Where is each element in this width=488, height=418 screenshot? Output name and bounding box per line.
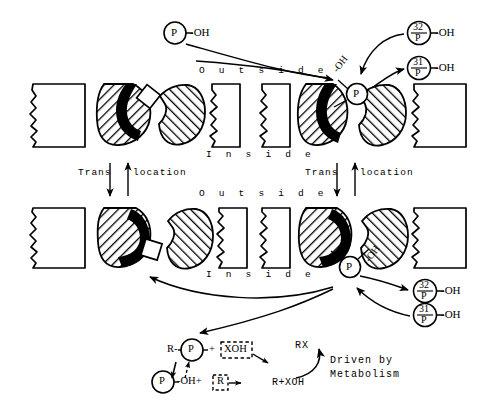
- cold-phosphate-symbol: P: [415, 68, 421, 78]
- membrane-block: [210, 84, 240, 147]
- cold-phosphate-symbol: P: [421, 315, 427, 325]
- carrier-lobe-right: [167, 209, 213, 269]
- inside-label-top: I n s i d e: [206, 150, 315, 160]
- carrier-lobe-right: [159, 85, 205, 145]
- diagram-canvas: P -OH 32 P -OH 31 P -OH P -OH O u t s i …: [0, 0, 488, 418]
- membrane-block: [260, 84, 290, 147]
- r-plus-xoh-label: R+XOH: [272, 378, 305, 388]
- recycle-arrow-left: [150, 277, 333, 298]
- isotope-in-arrow: [361, 34, 404, 74]
- panel-top-right: [260, 80, 466, 147]
- influx-arrow: [357, 288, 410, 316]
- bound-phosphate-label: P: [353, 88, 359, 99]
- reaction-oh-plus-label: -OH+: [177, 376, 202, 387]
- outside-label-bottom: O u t s i d e: [199, 189, 328, 199]
- cold-phosphate-mass-number: 31: [419, 304, 429, 314]
- reaction-vertical-arrow: [172, 362, 176, 378]
- inside-label-bottom: I n s i d e: [206, 270, 315, 280]
- metabolism-label: Metabolism: [330, 370, 400, 380]
- translocation-label-left-part: Trans: [78, 168, 112, 178]
- radio-phosphate-symbol: P: [415, 33, 421, 43]
- translocation-label-right-part: location: [133, 168, 187, 178]
- panel-bottom-right: [260, 208, 466, 278]
- reaction-plus-sign: +: [209, 344, 215, 355]
- free-phosphate-label: P: [171, 27, 177, 38]
- cold-phosphate-oh-label: -OH: [441, 309, 461, 320]
- reaction-phosphate-label: P: [159, 376, 165, 387]
- substrate-square: [141, 239, 162, 260]
- membrane-block: [30, 84, 85, 147]
- panel-top-left: [30, 84, 240, 147]
- reaction-r-prefix: R-: [167, 344, 178, 355]
- radio-phosphate-mass-number: 32: [419, 280, 429, 290]
- radio-phosphate-oh-label: -OH: [435, 27, 455, 38]
- cold-phosphate-oh-label: -OH: [435, 62, 455, 73]
- cold-phosphate-mass-number: 31: [413, 57, 423, 67]
- xoh-label: XOH: [224, 344, 247, 355]
- membrane-block: [412, 84, 466, 147]
- phosphate-tether: [338, 80, 348, 89]
- r-radical-label: R: [217, 376, 224, 387]
- radio-phosphate-symbol: P: [421, 291, 427, 301]
- radio-phosphate-oh-label: -OH: [441, 285, 461, 296]
- driven-by-label: Driven by: [330, 356, 393, 366]
- translocation-label-left-part: Trans: [305, 168, 339, 178]
- free-phosphate-oh-label: -OH: [190, 27, 210, 38]
- membrane-block: [412, 208, 466, 268]
- membrane-block: [260, 208, 290, 268]
- efflux-arrow: [360, 276, 408, 290]
- translocation-label-right-part: location: [360, 168, 414, 178]
- panel-bottom-left: [30, 208, 247, 269]
- membrane-block: [30, 208, 85, 268]
- radio-phosphate-mass-number: 32: [413, 22, 423, 32]
- outside-label-top: O u t s i d e: [199, 66, 328, 76]
- membrane-block: [217, 208, 247, 268]
- reaction-forward-arrow: [253, 354, 268, 363]
- reaction-phosphate-label: P: [188, 344, 194, 355]
- released-phosphate-label: P: [346, 261, 352, 272]
- metabolism-arrow: [296, 349, 320, 378]
- rx-label: RX: [295, 341, 309, 351]
